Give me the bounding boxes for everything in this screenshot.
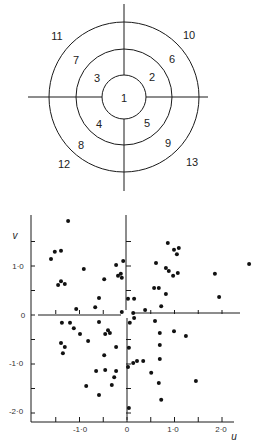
- data-point: [184, 334, 188, 338]
- x-tick-label-2: 2·0: [215, 425, 227, 435]
- data-point: [158, 331, 162, 335]
- data-point: [97, 296, 101, 300]
- data-point: [131, 311, 135, 315]
- data-point: [59, 341, 63, 345]
- y-tick-label-1: 1·0: [12, 262, 24, 272]
- data-point: [157, 286, 161, 290]
- data-point: [217, 295, 221, 299]
- data-point: [60, 321, 64, 325]
- data-point: [102, 353, 106, 357]
- data-point: [63, 282, 67, 286]
- data-point: [86, 339, 90, 343]
- segment-label-8: 8: [78, 140, 84, 150]
- y-tick-label-minus-2: -2·0: [9, 407, 23, 417]
- data-point: [126, 365, 130, 369]
- data-point: [166, 241, 170, 245]
- data-point: [97, 393, 101, 397]
- data-point: [149, 371, 153, 375]
- data-point: [59, 279, 63, 283]
- x-axis-label: u: [231, 432, 237, 442]
- data-point: [103, 332, 107, 336]
- data-point: [153, 319, 157, 323]
- data-point: [93, 305, 97, 309]
- data-point: [94, 369, 98, 373]
- data-point: [82, 267, 86, 271]
- data-point: [172, 248, 176, 252]
- data-point: [128, 321, 132, 325]
- y-tick-label-0: 0: [21, 311, 25, 321]
- data-point: [132, 316, 136, 320]
- data-point: [247, 262, 251, 266]
- data-point: [68, 321, 72, 325]
- data-point: [159, 304, 163, 308]
- segment-label-12: 12: [58, 159, 70, 169]
- data-point: [177, 246, 181, 250]
- data-point: [120, 310, 124, 314]
- data-point: [143, 308, 147, 312]
- figure-canvas: [0, 0, 254, 444]
- data-point: [97, 320, 101, 324]
- x-tick-label-minus-1: -1·0: [73, 425, 87, 435]
- data-point: [114, 345, 118, 349]
- data-point: [157, 381, 161, 385]
- segment-label-1: 1: [121, 93, 127, 103]
- data-point: [164, 266, 168, 270]
- data-point: [78, 332, 82, 336]
- data-point: [84, 384, 88, 388]
- data-point: [176, 271, 180, 275]
- data-point: [110, 383, 114, 387]
- data-point: [167, 269, 171, 273]
- data-point: [119, 272, 123, 276]
- data-point: [172, 329, 176, 333]
- segment-label-13: 13: [186, 157, 198, 167]
- data-point: [171, 274, 175, 278]
- segment-label-7: 7: [73, 55, 79, 65]
- data-point: [72, 326, 76, 330]
- data-point: [120, 276, 124, 280]
- data-point: [159, 398, 163, 402]
- segment-label-4: 4: [96, 119, 102, 129]
- data-point: [158, 343, 162, 347]
- data-point: [141, 359, 145, 363]
- data-point: [127, 346, 131, 350]
- data-point: [49, 257, 53, 261]
- data-point: [63, 345, 67, 349]
- segment-label-11: 11: [51, 31, 62, 41]
- data-point: [108, 331, 112, 335]
- data-point: [59, 249, 63, 253]
- data-point: [61, 351, 65, 355]
- data-point: [158, 357, 162, 361]
- segment-label-2: 2: [149, 72, 155, 82]
- y-tick-label-minus-1: -1·0: [9, 359, 23, 369]
- data-point: [74, 307, 78, 311]
- segment-label-5: 5: [144, 118, 150, 128]
- data-point: [194, 379, 198, 383]
- x-tick-label-1: 1·0: [167, 425, 179, 435]
- data-point: [114, 369, 118, 373]
- segment-label-6: 6: [169, 54, 175, 64]
- data-point: [53, 250, 57, 254]
- segment-label-3: 3: [94, 73, 100, 83]
- data-point: [103, 368, 107, 372]
- data-point: [213, 272, 217, 276]
- data-point: [152, 286, 156, 290]
- data-point: [121, 259, 125, 263]
- data-point: [102, 277, 106, 281]
- data-point: [112, 375, 116, 379]
- y-axis-label: v: [13, 231, 18, 241]
- data-point: [114, 263, 118, 267]
- data-point: [132, 297, 136, 301]
- data-point: [154, 261, 158, 265]
- data-point: [56, 283, 60, 287]
- data-point: [127, 406, 131, 410]
- data-point: [66, 219, 70, 223]
- data-point: [164, 292, 168, 296]
- data-point: [175, 252, 179, 256]
- data-point: [126, 297, 130, 301]
- segment-label-10: 10: [183, 30, 195, 40]
- data-point: [131, 361, 135, 365]
- segment-label-9: 9: [165, 138, 171, 148]
- data-point: [135, 359, 139, 363]
- x-tick-label-0: 0: [125, 425, 129, 435]
